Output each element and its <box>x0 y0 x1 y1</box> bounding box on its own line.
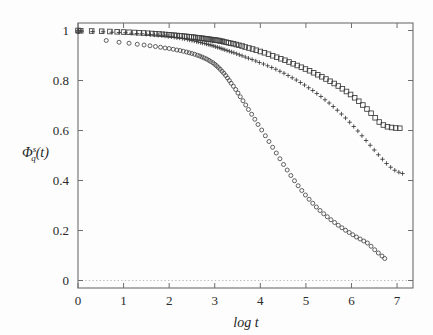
data-point-plus <box>229 50 233 54</box>
data-point-plus <box>388 165 392 169</box>
data-point-plus <box>290 76 294 80</box>
svg-text:Φsq(t): Φsq(t) <box>22 144 49 163</box>
y-tick-label: 0 <box>63 273 70 288</box>
data-point-plus <box>286 73 290 77</box>
data-point-plus <box>232 51 236 55</box>
data-point-circle <box>246 108 250 112</box>
data-point-circle <box>307 197 311 201</box>
data-point-circle <box>250 112 254 116</box>
data-point-plus <box>347 120 351 124</box>
data-point-circle <box>238 95 242 99</box>
x-tick-label: 3 <box>211 293 218 308</box>
x-tick-label: 4 <box>257 293 264 308</box>
data-point-circle <box>293 179 297 183</box>
data-point-circle <box>117 40 121 44</box>
data-point-plus <box>335 108 339 112</box>
data-point-plus <box>302 83 306 87</box>
data-point-plus <box>364 138 368 142</box>
data-point-circle <box>282 163 286 167</box>
y-tick-label: 0.2 <box>53 223 69 238</box>
data-point-plus <box>360 134 364 138</box>
series-circles <box>76 30 387 261</box>
y-tick-label: 0.6 <box>53 123 70 138</box>
data-point-plus <box>376 153 380 157</box>
data-point-circle <box>190 52 194 56</box>
data-point-plus <box>319 94 323 98</box>
data-point-plus <box>274 67 278 71</box>
data-point-circle <box>311 201 315 205</box>
data-point-plus <box>323 98 327 102</box>
x-tick-labels: 01234567 <box>75 293 401 308</box>
data-point-circle <box>187 51 191 55</box>
series-squares <box>76 28 402 130</box>
data-point-circle <box>365 241 369 245</box>
data-point-circle <box>285 168 289 172</box>
data-point-plus <box>384 161 388 165</box>
data-point-plus <box>282 71 286 75</box>
data-point-plus <box>315 91 319 95</box>
data-point-plus <box>393 168 397 172</box>
data-point-circle <box>142 43 146 47</box>
scatter-plot: 01234567 00.20.40.60.81 log t Φsq(t) <box>0 0 433 335</box>
y-tick-labels: 00.20.40.60.81 <box>53 23 70 288</box>
data-point-plus <box>331 104 335 108</box>
data-point-circle <box>333 221 337 225</box>
data-point-circle <box>289 174 293 178</box>
data-point-circle <box>329 218 333 222</box>
data-point-plus <box>234 52 238 56</box>
plot-border <box>78 23 413 288</box>
data-point-circle <box>318 209 322 213</box>
x-axis-title: log t <box>233 315 259 330</box>
data-point-plus <box>225 48 229 52</box>
data-point-circle <box>373 248 377 252</box>
data-point-circle <box>253 117 257 121</box>
figure-container: 01234567 00.20.40.60.81 log t Φsq(t) <box>0 0 433 335</box>
data-point-circle <box>274 151 278 155</box>
data-point-circle <box>340 226 344 230</box>
x-tick-label: 1 <box>120 293 127 308</box>
data-point-plus <box>169 35 173 39</box>
data-point-circle <box>244 103 248 107</box>
data-point-circle <box>300 189 304 193</box>
data-point-plus <box>343 116 347 120</box>
data-point-plus <box>265 64 269 68</box>
data-point-circle <box>260 128 264 132</box>
series-plus-signs <box>76 29 405 176</box>
data-point-circle <box>104 39 108 43</box>
data-point-square <box>127 30 132 35</box>
data-point-circle <box>314 205 318 209</box>
data-point-circle <box>148 44 152 48</box>
y-tick-label: 1 <box>63 23 70 38</box>
data-point-circle <box>278 157 282 161</box>
data-point-plus <box>237 53 241 57</box>
x-tick-label: 0 <box>75 293 82 308</box>
y-tick-label: 0.8 <box>53 73 69 88</box>
data-point-plus <box>261 62 265 66</box>
data-point-circle <box>127 41 131 45</box>
data-point-plus <box>327 101 331 105</box>
data-point-circle <box>325 215 329 219</box>
data-point-plus <box>172 35 176 39</box>
data-point-circle <box>271 145 275 149</box>
data-point-circle <box>135 42 139 46</box>
data-point-plus <box>339 112 343 116</box>
data-point-circle <box>267 140 271 144</box>
data-point-circle <box>347 231 351 235</box>
y-axis-title: Φsq(t) <box>22 144 49 163</box>
data-point-square <box>132 30 137 35</box>
data-point-plus <box>298 80 302 84</box>
data-point-plus <box>306 86 310 90</box>
data-point-circle <box>303 193 307 197</box>
data-point-circle <box>163 46 167 50</box>
data-point-plus <box>270 65 274 69</box>
data-point-plus <box>227 49 231 53</box>
data-point-circle <box>322 212 326 216</box>
plot-frame <box>78 23 413 288</box>
data-point-circle <box>376 251 380 255</box>
x-tick-label: 7 <box>394 293 401 308</box>
data-point-plus <box>352 124 356 128</box>
data-point-plus <box>380 157 384 161</box>
data-point-circle <box>167 47 171 51</box>
data-point-square <box>137 30 142 35</box>
data-point-square <box>89 29 94 34</box>
